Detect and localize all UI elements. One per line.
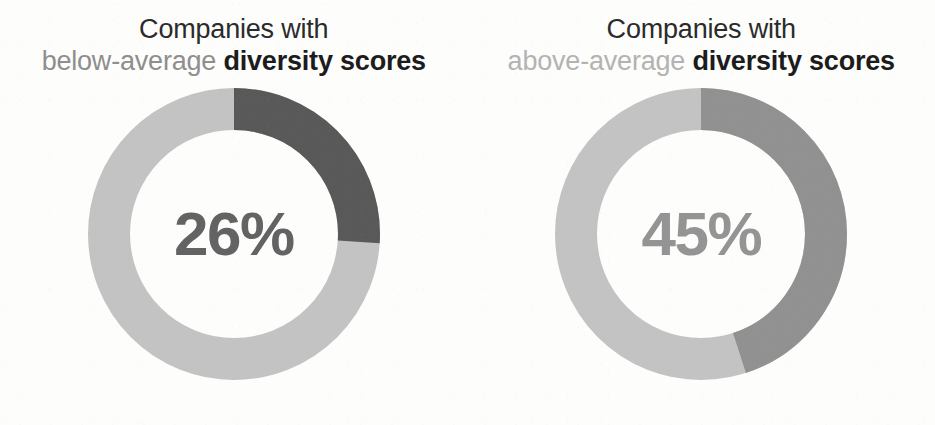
- panel-title-rest: diversity scores: [216, 46, 426, 76]
- panel-title-emphasis: below-average: [42, 46, 217, 76]
- panel-title-line-1: Companies with: [42, 14, 426, 46]
- panel-title-rest: diversity scores: [685, 46, 895, 76]
- donut-svg-below-average: [84, 84, 384, 384]
- panel-title-above-average: Companies with above-average diversity s…: [508, 14, 895, 78]
- panel-title-line-2: below-average diversity scores: [42, 46, 426, 78]
- donut-panel-above-average: Companies with above-average diversity s…: [468, 0, 935, 425]
- donut-chart-below-average: 26%: [84, 84, 384, 384]
- donut-panel-below-average: Companies with below-average diversity s…: [0, 0, 468, 425]
- panel-title-below-average: Companies with below-average diversity s…: [42, 14, 426, 78]
- panel-title-line-2: above-average diversity scores: [508, 46, 895, 78]
- panel-title-line-1: Companies with: [508, 14, 895, 46]
- panel-title-emphasis: above-average: [508, 46, 686, 76]
- donut-svg-above-average: [551, 84, 851, 384]
- donut-chart-above-average: 45%: [551, 84, 851, 384]
- figure-root: Companies with below-average diversity s…: [0, 0, 935, 425]
